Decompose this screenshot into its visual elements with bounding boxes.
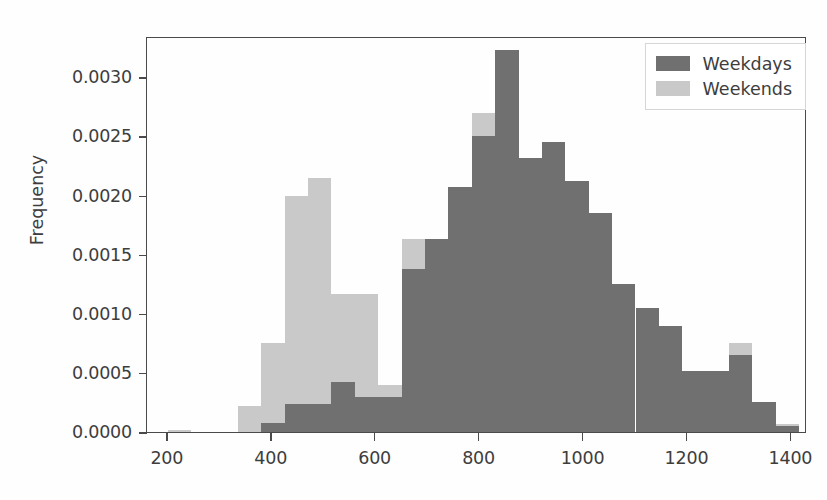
legend-label-weekends: Weekends: [703, 79, 792, 99]
histogram-bar: [308, 178, 331, 432]
histogram-bar: [168, 430, 191, 432]
y-tick-label: 0.0020: [32, 186, 132, 206]
histogram-bar: [472, 136, 495, 432]
x-tick-mark: [790, 433, 792, 441]
histogram-bar: [636, 308, 659, 432]
x-tick-label: 1000: [543, 448, 623, 468]
x-tick-mark: [270, 433, 272, 441]
x-tick-label: 200: [127, 448, 207, 468]
histogram-bar: [612, 284, 635, 432]
x-tick-mark: [686, 433, 688, 441]
histogram-bar: [285, 196, 308, 432]
histogram-bar: [659, 326, 682, 432]
histogram-bar: [729, 355, 752, 432]
y-tick-label: 0.0010: [32, 304, 132, 324]
x-tick-label: 1400: [750, 448, 827, 468]
histogram-figure: Frequency 0.00000.00050.00100.00150.0020…: [0, 0, 827, 500]
x-tick-mark: [582, 433, 584, 441]
histogram-bar: [706, 371, 729, 432]
x-tick-label: 800: [439, 448, 519, 468]
legend-label-weekdays: Weekdays: [703, 54, 792, 74]
histogram-bar: [238, 406, 261, 432]
y-tick-label: 0.0000: [32, 422, 132, 442]
legend-item-weekends: Weekends: [656, 76, 792, 101]
y-tick-label: 0.0015: [32, 245, 132, 265]
histogram-bar: [331, 382, 354, 432]
x-tick-label: 600: [335, 448, 415, 468]
histogram-bar: [378, 397, 401, 432]
legend-swatch-weekdays: [656, 56, 690, 71]
histogram-bar: [402, 269, 425, 432]
histogram-bar: [261, 423, 284, 432]
histogram-bar: [261, 343, 284, 432]
histogram-bar: [752, 402, 775, 432]
x-tick-mark: [478, 433, 480, 441]
legend: Weekdays Weekends: [645, 43, 806, 110]
x-tick-label: 1200: [646, 448, 726, 468]
y-tick-label: 0.0025: [32, 126, 132, 146]
histogram-bar: [308, 404, 331, 432]
legend-item-weekdays: Weekdays: [656, 51, 792, 76]
histogram-bar: [542, 142, 565, 432]
y-axis-tick-labels: 0.00000.00050.00100.00150.00200.00250.00…: [22, 0, 132, 500]
histogram-bar: [495, 50, 518, 432]
y-tick-label: 0.0030: [32, 67, 132, 87]
histogram-bar: [589, 213, 612, 432]
histogram-bar: [519, 158, 542, 432]
histogram-bar: [355, 397, 378, 432]
x-tick-mark: [166, 433, 168, 441]
histogram-bar: [448, 187, 471, 432]
histogram-bar: [682, 371, 705, 432]
y-tick-label: 0.0005: [32, 363, 132, 383]
histogram-bar: [425, 239, 448, 432]
histogram-bar: [776, 426, 799, 432]
legend-swatch-weekends: [656, 81, 690, 96]
histogram-bar: [565, 181, 588, 432]
x-tick-label: 400: [231, 448, 311, 468]
x-tick-mark: [374, 433, 376, 441]
histogram-bar: [285, 404, 308, 432]
